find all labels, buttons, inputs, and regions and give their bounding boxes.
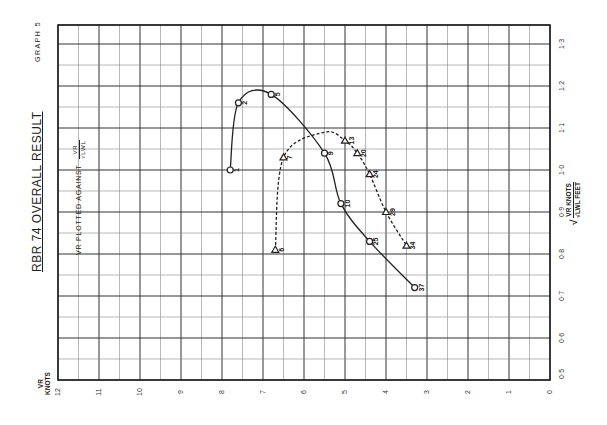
- ratio-axis-label-num: VR KNOTS: [565, 182, 574, 218]
- point-label: 34: [409, 242, 416, 250]
- point-label: 20: [360, 149, 367, 157]
- point-label: 10: [344, 200, 351, 208]
- series-a-line: [230, 90, 415, 288]
- point-label: 6: [278, 248, 285, 252]
- ratio-tick-label: 0·9: [558, 207, 565, 217]
- subtitle-prefix: VR PLOTTED AGAINST: [75, 164, 82, 255]
- point-label: 9: [327, 151, 334, 155]
- page-title: RBR 74 OVERALL RESULT: [30, 111, 44, 272]
- ratio-axis-label-den: √LWL FEET: [574, 182, 582, 218]
- knots-tick-label: 1: [505, 390, 512, 394]
- knots-tick-label: 4: [382, 390, 389, 394]
- subtitle-fraction-den: √LWL: [80, 140, 87, 158]
- ratio-tick-label: 0·6: [558, 333, 565, 343]
- graph-number: GRAPH 5: [34, 21, 41, 62]
- ratio-tick-label: 0·8: [558, 249, 565, 259]
- sqrt-symbol: √: [568, 220, 579, 226]
- ratio-tick-label: 1·3: [558, 39, 565, 49]
- knots-tick-label: 0: [546, 390, 553, 394]
- knots-tick-label: 10: [136, 388, 143, 396]
- subtitle-fraction-num: VR: [72, 140, 80, 158]
- knots-tick-label: 12: [54, 388, 61, 396]
- knots-axis-label-line2: KNOTS: [44, 372, 51, 395]
- knots-axis-label-line1: VR: [37, 372, 44, 395]
- knots-axis-label: VR KNOTS: [37, 372, 51, 395]
- point-label: 5: [274, 92, 281, 96]
- knots-tick-label: 5: [341, 390, 348, 394]
- ratio-tick-label: 1·0: [558, 165, 565, 175]
- axis-ticks: 12111098765432100·50·60·70·80·91·01·11·2…: [54, 39, 565, 396]
- point-label: 7: [286, 155, 293, 159]
- series-b-line: [275, 132, 406, 250]
- point-label: 2: [241, 101, 248, 105]
- subtitle: VR PLOTTED AGAINST VR √LWL: [72, 140, 87, 255]
- point-label: 25: [372, 237, 379, 245]
- ratio-tick-label: 1·1: [558, 123, 565, 133]
- point-label: 13: [348, 137, 355, 145]
- knots-tick-label: 7: [259, 390, 266, 394]
- knots-tick-label: 9: [177, 390, 184, 394]
- ratio-tick-label: 0·7: [558, 291, 565, 301]
- point-label: 24: [372, 170, 379, 178]
- subtitle-fraction: VR √LWL: [72, 140, 87, 158]
- knots-tick-label: 11: [95, 388, 102, 395]
- point-label: 37: [418, 284, 425, 292]
- point-label: 1: [233, 168, 240, 172]
- grid: [58, 25, 550, 380]
- ratio-axis-label: √ VR KNOTS √LWL FEET: [565, 182, 582, 225]
- knots-tick-label: 6: [300, 390, 307, 394]
- point-label: 29: [389, 208, 396, 216]
- ratio-tick-label: 1·2: [558, 81, 565, 91]
- knots-tick-label: 3: [423, 390, 430, 394]
- knots-tick-label: 8: [218, 390, 225, 394]
- chart-canvas: 1259102537671320242934 12111098765432100…: [0, 0, 607, 425]
- ratio-tick-label: 0·5: [558, 369, 565, 379]
- knots-tick-label: 2: [464, 390, 471, 394]
